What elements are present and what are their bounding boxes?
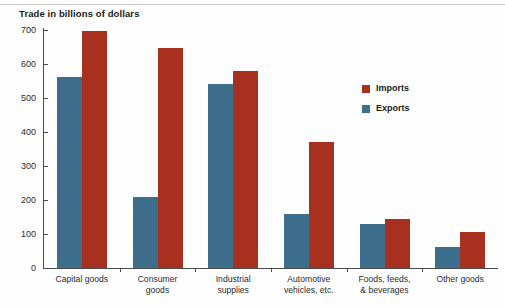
- y-axis-tick-label: 200: [0, 196, 36, 205]
- bar-exports: [435, 247, 460, 268]
- x-axis-group-tick: [347, 268, 348, 272]
- y-axis-tick-label: 600: [0, 60, 36, 69]
- y-axis-tick: [43, 64, 48, 65]
- y-axis-tick-label: 700: [0, 26, 36, 35]
- bar-exports: [284, 214, 309, 268]
- y-axis-tick-label: 100: [0, 230, 36, 239]
- bar-imports: [82, 31, 107, 268]
- y-axis-tick-label: 300: [0, 162, 36, 171]
- category-label: Consumer goods: [120, 274, 196, 296]
- category-label: Other goods: [422, 274, 498, 285]
- legend-swatch-icon: [362, 85, 370, 93]
- y-axis-tick: [43, 166, 48, 167]
- bar-exports: [133, 197, 158, 268]
- bar-exports: [57, 77, 82, 268]
- chart-title: Trade in billions of dollars: [19, 8, 140, 19]
- legend-item-exports: Exports: [362, 104, 410, 113]
- y-axis-tick: [43, 200, 48, 201]
- legend-label: Imports: [376, 84, 409, 93]
- bar-imports: [385, 219, 410, 268]
- bar-imports: [233, 71, 258, 268]
- y-axis-tick: [43, 30, 48, 31]
- legend-label: Exports: [376, 104, 410, 113]
- category-label: Foods, feeds, & beverages: [347, 274, 423, 296]
- y-axis-tick-label: 500: [0, 94, 36, 103]
- chart-legend: ImportsExports: [362, 84, 410, 124]
- bar-imports: [309, 142, 334, 268]
- x-axis-group-tick: [422, 268, 423, 272]
- bar-imports: [158, 48, 183, 268]
- y-axis-tick: [43, 98, 48, 99]
- y-axis-tick-label: 0: [0, 264, 36, 273]
- trade-bar-chart-figure: Trade in billions of dollars 01002003004…: [0, 0, 505, 308]
- y-axis-tick: [43, 132, 48, 133]
- category-label: Industrial supplies: [195, 274, 271, 296]
- y-axis-tick-label: 400: [0, 128, 36, 137]
- bar-exports: [360, 224, 385, 268]
- bar-imports: [460, 232, 485, 268]
- x-axis-group-tick: [271, 268, 272, 272]
- legend-swatch-icon: [362, 105, 370, 113]
- y-axis-tick: [43, 234, 48, 235]
- top-divider-rule: [0, 4, 505, 5]
- y-axis-tick: [43, 268, 48, 269]
- category-label: Capital goods: [44, 274, 120, 285]
- x-axis-group-tick: [195, 268, 196, 272]
- category-label: Automotive vehicles, etc.: [271, 274, 347, 296]
- legend-item-imports: Imports: [362, 84, 410, 93]
- x-axis-group-tick: [120, 268, 121, 272]
- bar-exports: [208, 84, 233, 268]
